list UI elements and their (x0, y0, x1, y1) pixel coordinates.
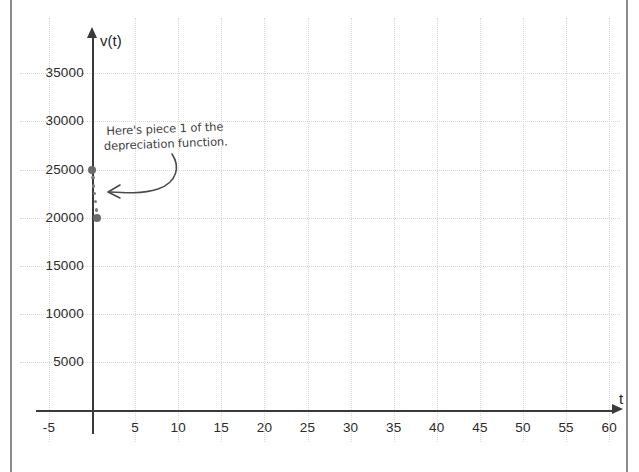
gridline-horizontal (20, 314, 620, 315)
gridline-horizontal (20, 266, 620, 267)
data-point-endpoint (93, 214, 101, 222)
gridline-vertical (394, 18, 395, 442)
x-tick-label: 25 (288, 420, 328, 435)
annotation-curved-arrow-icon (96, 152, 196, 206)
y-tick: 25000 (22, 162, 84, 178)
chart-annotation-text: Here's piece 1 of the depreciation funct… (106, 118, 257, 154)
gridline-vertical (480, 18, 481, 442)
gridline-vertical (308, 18, 309, 442)
y-tick: 35000 (22, 65, 84, 81)
y-axis-line (92, 36, 94, 434)
gridline-vertical (609, 18, 610, 442)
x-tick-label: 45 (460, 420, 500, 435)
data-point (91, 176, 94, 179)
gridline-horizontal (20, 73, 620, 74)
gridline-vertical (264, 18, 265, 442)
x-tick-label: 40 (417, 420, 457, 435)
x-tick-label: 55 (546, 420, 586, 435)
x-tick-label: 60 (589, 420, 629, 435)
gridline-vertical (135, 18, 136, 442)
gridline-vertical (437, 18, 438, 442)
y-tick-label: 20000 (22, 210, 84, 225)
y-tick: 15000 (22, 258, 84, 274)
y-tick-label: 10000 (22, 306, 84, 321)
data-point (95, 208, 98, 211)
gridline-vertical (523, 18, 524, 442)
data-point-endpoint (88, 166, 96, 174)
x-tick-label: -5 (29, 420, 69, 435)
gridline-vertical (566, 18, 567, 442)
y-tick: 30000 (22, 113, 84, 129)
x-axis-line (36, 410, 616, 412)
x-axis-label: t (619, 390, 623, 407)
y-axis-label: v(t) (100, 32, 122, 49)
x-tick-label: 15 (201, 420, 241, 435)
y-tick-label: 25000 (22, 162, 84, 177)
gridline-vertical (49, 18, 50, 442)
chart-gridlines (0, 0, 639, 472)
gridline-vertical (221, 18, 222, 442)
y-tick: 20000 (22, 210, 84, 226)
x-tick-label: 30 (331, 420, 371, 435)
y-tick: 5000 (22, 354, 84, 370)
gridline-horizontal (20, 362, 620, 363)
x-tick-label: 10 (158, 420, 198, 435)
y-tick: 10000 (22, 306, 84, 322)
gridline-vertical (351, 18, 352, 442)
y-tick-label: 15000 (22, 258, 84, 273)
chart-page: v(t) t 500010000150002000025000300003500… (0, 0, 639, 472)
x-tick-label: 5 (115, 420, 155, 435)
x-tick-label: 50 (503, 420, 543, 435)
y-tick-label: 30000 (22, 113, 84, 128)
gridline-vertical (178, 18, 179, 442)
y-tick-label: 35000 (22, 65, 84, 80)
y-tick-label: 5000 (22, 354, 84, 369)
gridline-horizontal (20, 218, 620, 219)
y-axis-arrow-icon (87, 27, 97, 38)
x-tick-label: 35 (374, 420, 414, 435)
gridline-horizontal (20, 121, 620, 122)
x-tick-label: 20 (244, 420, 284, 435)
